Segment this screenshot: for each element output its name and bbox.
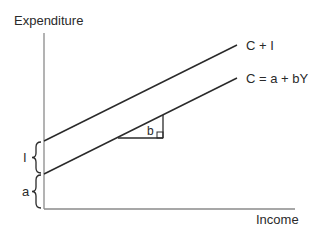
y-axis-label: Expenditure bbox=[14, 13, 83, 28]
slope-label: b bbox=[147, 124, 154, 138]
investment-label: I bbox=[23, 150, 27, 165]
c-plus-i-label: C + I bbox=[246, 38, 274, 53]
right-angle-marker bbox=[157, 132, 163, 138]
autonomous-consumption-label: a bbox=[22, 184, 30, 199]
consumption-label: C = a + bY bbox=[246, 71, 308, 86]
x-axis-label: Income bbox=[256, 212, 299, 227]
keynesian-cross-diagram: Expenditure Income C + I C = a + bY b I … bbox=[0, 0, 312, 235]
investment-brace-icon bbox=[32, 142, 41, 173]
autonomous-consumption-brace-icon bbox=[32, 175, 41, 208]
